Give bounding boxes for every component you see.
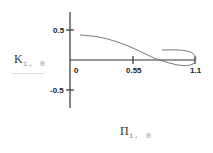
x-tick-0: 0 <box>74 66 79 75</box>
y-axis-label: Ki, 0 <box>14 52 46 68</box>
y-label-underline <box>12 73 44 74</box>
y-tick--0.5: -0.5 <box>50 86 64 95</box>
data-curve <box>80 35 196 66</box>
x-tick-0.55: 0.55 <box>126 66 142 75</box>
y-tick-0.5: 0.5 <box>53 26 65 35</box>
x-axis-label: Πi, 0 <box>120 124 152 140</box>
plot-area: 0.5 -0.5 0 0.55 1.1 <box>0 0 213 153</box>
x-tick-1.1: 1.1 <box>190 66 202 75</box>
